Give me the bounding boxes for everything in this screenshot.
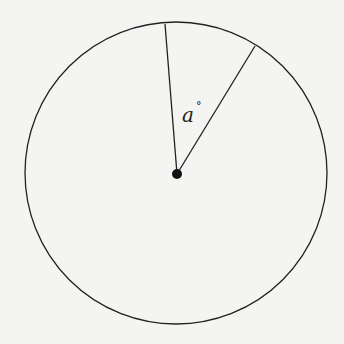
radius-left xyxy=(165,24,177,174)
angle-label: a xyxy=(182,103,194,127)
circle-diagram: a ° xyxy=(0,0,344,344)
center-point xyxy=(172,169,182,179)
degree-symbol: ° xyxy=(196,100,202,113)
